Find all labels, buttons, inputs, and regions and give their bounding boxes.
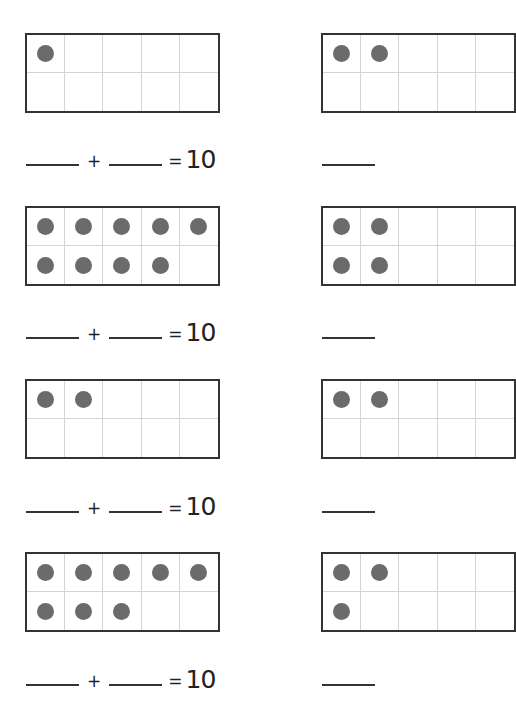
ten-frame-cell [103,554,141,592]
ten-frame-cell [361,381,399,419]
counter-dot-icon [37,257,54,274]
ten-frame-cell [65,246,103,284]
counter-dot-icon [371,391,388,408]
counter-dot-icon [37,603,54,620]
counter-dot-icon [37,218,54,235]
ten-frame-cell [399,35,437,73]
counter-dot-icon [371,45,388,62]
ten-frame-cell [103,73,141,111]
ten-frame-cell [27,208,65,246]
answer-blank[interactable] [322,683,375,686]
ten-frame-cell [65,73,103,111]
counter-dot-icon [190,218,207,235]
ten-frame-cell [361,246,399,284]
counter-dot-icon [37,45,54,62]
ten-frame-cell [65,419,103,457]
answer-blank[interactable] [322,163,375,166]
answer-blank[interactable] [322,510,375,513]
ten-frame-cell [399,592,437,630]
counter-dot-icon [190,564,207,581]
ten-frame-cell [361,208,399,246]
answer-blank[interactable] [26,683,79,686]
answer-blank[interactable] [109,163,162,166]
ten-frame-cell [399,554,437,592]
counter-dot-icon [113,257,130,274]
total-value: 10 [186,494,216,519]
answer-blank[interactable] [109,510,162,513]
ten-frame-cell [323,592,361,630]
ten-frame-cell [180,208,218,246]
counter-dot-icon [37,564,54,581]
ten-frame-cell [180,554,218,592]
answer-blank[interactable] [26,163,79,166]
counter-dot-icon [333,45,350,62]
ten-frame-cell [438,381,476,419]
ten-frame-cell [438,208,476,246]
ten-frame-cell [476,554,514,592]
ten-frame-cell [27,35,65,73]
counter-dot-icon [333,257,350,274]
ten-frame-cropped [321,33,516,113]
ten-frame-cell [323,73,361,111]
ten-frame-cell [27,592,65,630]
ten-frame-cell [142,419,180,457]
ten-frame-cell [476,419,514,457]
ten-frame-cell [65,554,103,592]
equals-sign: = [168,326,182,343]
counter-dot-icon [75,603,92,620]
ten-frame-cell [323,35,361,73]
counter-dot-icon [371,257,388,274]
answer-blank[interactable] [26,510,79,513]
equation-cropped [322,315,375,345]
answer-blank[interactable] [109,683,162,686]
counter-dot-icon [75,564,92,581]
equation: +=10 [26,489,215,519]
ten-frame-cell [27,246,65,284]
equals-sign: = [168,673,182,690]
ten-frame-cell [399,73,437,111]
ten-frame-cell [361,73,399,111]
ten-frame-cell [65,381,103,419]
ten-frame-cell [27,419,65,457]
answer-blank[interactable] [109,336,162,339]
ten-frame-cell [361,554,399,592]
ten-frame [25,379,220,459]
ten-frame-cell [323,208,361,246]
ten-frame-cell [103,246,141,284]
ten-frame-cell [142,246,180,284]
counter-dot-icon [333,603,350,620]
ten-frame-cell [476,208,514,246]
plus-sign: + [87,326,101,343]
ten-frame [25,206,220,286]
ten-frame-cell [438,246,476,284]
counter-dot-icon [75,257,92,274]
ten-frame-cell [399,246,437,284]
counter-dot-icon [113,218,130,235]
equation: +=10 [26,315,215,345]
answer-blank[interactable] [322,336,375,339]
ten-frame-cell [65,35,103,73]
ten-frame-cell [27,381,65,419]
ten-frame-cell [399,419,437,457]
ten-frame-cell [27,554,65,592]
ten-frame-cell [399,208,437,246]
equation: +=10 [26,662,215,692]
ten-frame-cell [180,73,218,111]
ten-frame-cell [438,35,476,73]
plus-sign: + [87,673,101,690]
ten-frame-cell [438,419,476,457]
ten-frame-cell [476,381,514,419]
ten-frame-cell [65,592,103,630]
ten-frame-cell [323,246,361,284]
ten-frame-cell [399,381,437,419]
equals-sign: = [168,500,182,517]
ten-frame-cell [103,419,141,457]
ten-frame [25,552,220,632]
plus-sign: + [87,153,101,170]
ten-frame-cell [142,208,180,246]
equation-cropped [322,142,375,172]
counter-dot-icon [113,564,130,581]
answer-blank[interactable] [26,336,79,339]
equation-cropped [322,489,375,519]
ten-frame-cell [27,73,65,111]
